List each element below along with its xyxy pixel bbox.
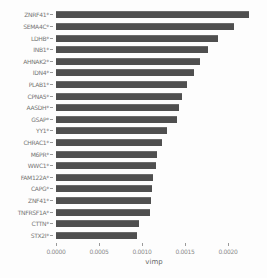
value-bar xyxy=(56,11,249,18)
bar-row: ZNRF41* xyxy=(0,9,267,21)
bar-row: IDN4* xyxy=(0,67,267,79)
y-axis-tick-mark xyxy=(50,49,53,50)
bar-row: M6PR* xyxy=(0,148,267,160)
bar-row: AHNAK2* xyxy=(0,55,267,67)
x-axis-tick-label: 0.0010 xyxy=(132,248,151,255)
value-bar xyxy=(56,162,156,169)
vimp-bar-chart: ZNRF41*SEMA4C*LDHB*INB1*AHNAK2*IDN4*PLAB… xyxy=(0,0,267,278)
bar-row: LDHB* xyxy=(0,32,267,44)
category-label: TNFRSF1A* xyxy=(0,209,49,216)
y-axis-tick-mark xyxy=(50,130,53,131)
x-axis: vimp 0.00000.00050.00100.00150.0020 xyxy=(0,243,267,273)
value-bar xyxy=(56,58,200,65)
y-axis-tick-mark xyxy=(50,38,53,39)
category-label: ZNRF41* xyxy=(0,11,49,18)
x-axis-tick-mark xyxy=(99,243,100,246)
y-axis-tick-mark xyxy=(50,96,53,97)
x-axis-tick-label: 0.0000 xyxy=(46,248,65,255)
y-axis-tick-mark xyxy=(50,107,53,108)
bar-row: TNFRSF1A* xyxy=(0,206,267,218)
bar-row: CAPG* xyxy=(0,183,267,195)
value-bar xyxy=(56,197,151,204)
y-axis-tick-mark xyxy=(50,223,53,224)
value-bar xyxy=(56,93,182,100)
value-bar xyxy=(56,185,152,192)
x-axis-tick-mark xyxy=(56,243,57,246)
y-axis-tick-mark xyxy=(50,165,53,166)
category-label: CPNA5* xyxy=(0,93,49,100)
y-axis-tick-mark xyxy=(50,200,53,201)
x-axis-tick-mark xyxy=(142,243,143,246)
y-axis-tick-mark xyxy=(50,142,53,143)
bar-row: CHRAC1* xyxy=(0,137,267,149)
y-axis-tick-mark xyxy=(50,212,53,213)
category-label: SEMA4C* xyxy=(0,23,49,30)
y-axis-tick-mark xyxy=(50,119,53,120)
bar-row: AASDH* xyxy=(0,102,267,114)
category-label: LDHB* xyxy=(0,35,49,42)
bar-row: WWC1* xyxy=(0,160,267,172)
category-label: PLAB1* xyxy=(0,81,49,88)
value-bar xyxy=(56,139,162,146)
value-bar xyxy=(56,69,194,76)
category-label: YY1* xyxy=(0,127,49,134)
value-bar xyxy=(56,232,137,239)
value-bar xyxy=(56,209,150,216)
x-axis-tick-mark xyxy=(228,243,229,246)
x-axis-tick-label: 0.0020 xyxy=(218,248,237,255)
y-axis-tick-mark xyxy=(50,188,53,189)
x-axis-tick-mark xyxy=(185,243,186,246)
value-bar xyxy=(56,116,177,123)
value-bar xyxy=(56,35,218,42)
x-axis-title: vimp xyxy=(145,258,162,266)
bar-row: CTTN* xyxy=(0,218,267,230)
value-bar xyxy=(56,127,167,134)
y-axis-tick-mark xyxy=(50,235,53,236)
bar-row: INB1* xyxy=(0,44,267,56)
category-label: WWC1* xyxy=(0,162,49,169)
y-axis-tick-mark xyxy=(50,72,53,73)
category-label: CAPG* xyxy=(0,185,49,192)
category-label: STX2I* xyxy=(0,232,49,239)
value-bar xyxy=(56,46,208,53)
bar-row: FAM122A* xyxy=(0,172,267,184)
category-label: ZNF41* xyxy=(0,197,49,204)
bar-row: SEMA4C* xyxy=(0,21,267,33)
category-label: M6PR* xyxy=(0,151,49,158)
bar-row: PLAB1* xyxy=(0,79,267,91)
bar-row: CPNA5* xyxy=(0,90,267,102)
bar-row: STX2I* xyxy=(0,230,267,242)
y-axis-tick-mark xyxy=(50,61,53,62)
value-bar xyxy=(56,220,139,227)
category-label: AASDH* xyxy=(0,104,49,111)
x-axis-tick-label: 0.0015 xyxy=(175,248,194,255)
bar-row: YY1* xyxy=(0,125,267,137)
value-bar xyxy=(56,81,187,88)
category-label: INB1* xyxy=(0,46,49,53)
category-label: CTTN* xyxy=(0,220,49,227)
y-axis-tick-mark xyxy=(50,177,53,178)
y-axis-tick-mark xyxy=(50,84,53,85)
value-bar xyxy=(56,174,153,181)
category-label: AHNAK2* xyxy=(0,58,49,65)
value-bar xyxy=(56,104,179,111)
y-axis-tick-mark xyxy=(50,14,53,15)
bar-row: ZNF41* xyxy=(0,195,267,207)
x-axis-tick-label: 0.0005 xyxy=(89,248,108,255)
value-bar xyxy=(56,151,157,158)
category-label: GSAP* xyxy=(0,116,49,123)
y-axis-tick-mark xyxy=(50,154,53,155)
category-label: FAM122A* xyxy=(0,174,49,181)
value-bar xyxy=(56,23,234,30)
y-axis-tick-mark xyxy=(50,26,53,27)
category-label: IDN4* xyxy=(0,69,49,76)
category-label: CHRAC1* xyxy=(0,139,49,146)
bar-rows: ZNRF41*SEMA4C*LDHB*INB1*AHNAK2*IDN4*PLAB… xyxy=(0,9,267,241)
bar-row: GSAP* xyxy=(0,113,267,125)
